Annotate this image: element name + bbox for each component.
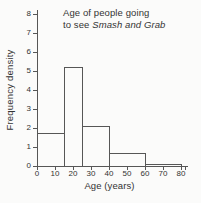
x-tick-label: 10 xyxy=(46,169,64,179)
x-axis-end-tick xyxy=(185,167,186,170)
histogram-bar xyxy=(64,67,83,166)
x-axis-line xyxy=(37,166,188,167)
y-tick xyxy=(33,33,37,34)
y-tick-label: 7 xyxy=(20,28,31,38)
x-tick-label: 20 xyxy=(64,169,82,179)
x-tick-label: 40 xyxy=(100,169,118,179)
x-tick-label: 80 xyxy=(172,169,190,179)
x-tick-label: 70 xyxy=(154,169,172,179)
chart-title-line2: to see Smash and Grab xyxy=(63,19,165,31)
y-tick xyxy=(33,52,37,53)
y-tick xyxy=(33,147,37,148)
chart-title-line2-prefix: to see xyxy=(63,19,92,30)
x-tick-label: 0 xyxy=(28,169,46,179)
chart-title-line1: Age of people going xyxy=(63,7,165,19)
histogram-bar xyxy=(37,133,65,166)
y-tick-label: 8 xyxy=(20,9,31,19)
x-tick-label: 60 xyxy=(136,169,154,179)
y-tick-label: 3 xyxy=(20,104,31,114)
histogram-bar xyxy=(82,126,110,166)
y-axis-title: Frequency density xyxy=(4,49,15,130)
chart-title-film-name: Smash and Grab xyxy=(92,19,165,30)
histogram-bar xyxy=(109,153,146,166)
y-tick xyxy=(33,14,37,15)
y-tick xyxy=(33,109,37,110)
y-tick-label: 6 xyxy=(20,47,31,57)
x-axis-title: Age (years) xyxy=(37,180,182,191)
histogram-figure: 01234567801020304050607080 Age of people… xyxy=(0,0,201,203)
y-axis-line xyxy=(37,10,38,167)
x-tick-label: 50 xyxy=(118,169,136,179)
y-tick xyxy=(33,71,37,72)
x-tick-label: 30 xyxy=(82,169,100,179)
y-tick xyxy=(33,90,37,91)
y-tick-label: 2 xyxy=(20,123,31,133)
y-tick-label: 1 xyxy=(20,142,31,152)
chart-title: Age of people going to see Smash and Gra… xyxy=(63,7,165,31)
y-tick-label: 4 xyxy=(20,85,31,95)
y-tick xyxy=(33,128,37,129)
y-tick-label: 5 xyxy=(20,66,31,76)
